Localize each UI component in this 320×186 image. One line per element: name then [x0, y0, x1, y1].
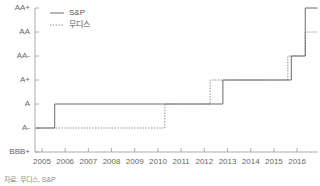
x-tick-label: 2014 — [242, 157, 260, 166]
y-tick-label: A+ — [20, 75, 30, 84]
x-tick-label: 2006 — [56, 157, 74, 166]
credit-rating-step-chart: BBB+A-AA+AA-AAAA+ 2005200620072008200920… — [0, 0, 320, 186]
x-tick-label: 2010 — [149, 157, 167, 166]
y-tick-label: AA — [19, 27, 30, 36]
y-tick-label: AA- — [17, 51, 31, 60]
x-axis-tick-labels: 2005200620072008200920102011201220132014… — [33, 157, 307, 166]
x-tick-label: 2008 — [103, 157, 121, 166]
x-tick-label: 2009 — [126, 157, 144, 166]
chart-canvas: BBB+A-AA+AA-AAAA+ 2005200620072008200920… — [0, 0, 320, 186]
legend-label-sp: S&P — [69, 8, 85, 17]
y-tick-label: A — [25, 99, 31, 108]
x-tick-label: 2015 — [265, 157, 283, 166]
x-tick-label: 2011 — [173, 157, 191, 166]
x-tick-label: 2005 — [33, 157, 51, 166]
x-tick-label: 2016 — [288, 157, 306, 166]
y-axis-tick-marks — [35, 8, 39, 152]
x-tick-label: 2012 — [195, 157, 213, 166]
x-tick-label: 2013 — [219, 157, 237, 166]
x-axis-tick-marks — [42, 148, 297, 152]
legend-label-moodys: 무디스 — [69, 20, 90, 29]
source-note: 자료: 무디스, S&P — [4, 174, 56, 184]
y-tick-label: AA+ — [15, 3, 31, 12]
chart-legend: S&P무디스 — [50, 8, 90, 29]
y-tick-label: BBB+ — [9, 147, 30, 156]
y-axis-tick-labels: BBB+A-AA+AA-AAAA+ — [9, 3, 30, 156]
y-tick-label: A- — [22, 123, 30, 132]
x-tick-label: 2007 — [79, 157, 97, 166]
